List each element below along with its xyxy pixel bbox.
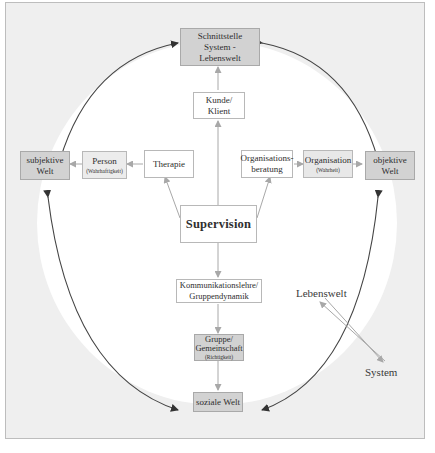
node-organisation: Organisation (Wahrheit) — [303, 150, 353, 178]
legend-system-label: System — [365, 366, 397, 378]
node-organisational-consulting: Organisations- beratung — [241, 150, 293, 178]
node-interface-system-lifeworld: Schnittstelle System - Lebenswelt — [180, 28, 260, 66]
node-communication-group-dynamics: Kommunikationslehre/ Gruppendynamik — [176, 279, 262, 303]
node-objective-world: objektive Welt — [365, 151, 415, 180]
node-social-world: soziale Welt — [193, 392, 243, 412]
node-supervision: Supervision — [180, 205, 257, 243]
legend-lifeworld-label: Lebenswelt — [296, 287, 347, 299]
node-person: Person (Wahrhaftigkeit) — [82, 151, 127, 179]
node-group-community: Gruppe/ Gemeinschaft (Richtigkeit) — [194, 334, 244, 361]
node-subjective-world: subjektive Welt — [20, 151, 70, 180]
node-therapy: Therapie — [144, 150, 194, 178]
node-client: Kunde/ Klient — [193, 92, 245, 119]
